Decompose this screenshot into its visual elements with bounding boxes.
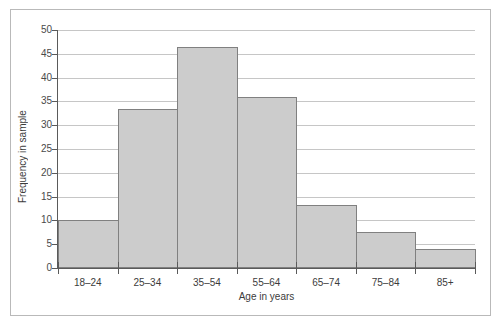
bar (415, 249, 476, 268)
y-tick-label: 30 (18, 120, 52, 130)
x-tick-mark (237, 262, 238, 274)
x-tick-label: 25–34 (118, 277, 178, 289)
x-tick-label: 85+ (415, 277, 475, 289)
x-axis-spine (57, 268, 476, 269)
y-tick-label: 35 (18, 96, 52, 106)
y-tick-label: 40 (18, 73, 52, 83)
bar (237, 97, 298, 268)
x-tick-mark (415, 262, 416, 274)
x-tick-label: 18–24 (58, 277, 118, 289)
x-tick-label: 75–84 (356, 277, 416, 289)
x-tick-mark (177, 262, 178, 274)
y-tick-label: 5 (18, 239, 52, 249)
x-tick-label: 35–54 (177, 277, 237, 289)
y-tick-label: 45 (18, 49, 52, 59)
x-tick-label: 65–74 (296, 277, 356, 289)
x-tick-label: 55–64 (237, 277, 297, 289)
x-axis-title: Age in years (58, 291, 475, 302)
x-tick-mark (356, 262, 357, 274)
y-tick-label: 25 (18, 144, 52, 154)
y-tick-label: 20 (18, 168, 52, 178)
x-tick-mark (296, 262, 297, 274)
y-axis-tick-group: 05101520253035404550 (0, 0, 52, 327)
plot-area (58, 30, 475, 268)
bar (118, 109, 179, 268)
x-tick-mark (475, 262, 476, 274)
y-tick-label: 50 (18, 25, 52, 35)
bar (58, 220, 119, 268)
y-tick-label: 10 (18, 215, 52, 225)
bar (177, 47, 238, 268)
y-gridline (58, 78, 475, 79)
bar (296, 205, 357, 268)
y-tick-label: 15 (18, 192, 52, 202)
y-gridline (58, 54, 475, 55)
x-tick-mark (58, 262, 59, 274)
x-tick-mark (118, 262, 119, 274)
y-gridline (58, 30, 475, 31)
bar (356, 232, 417, 268)
y-tick-label: 0 (18, 263, 52, 273)
